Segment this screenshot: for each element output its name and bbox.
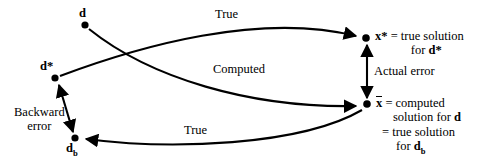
edge-label-actual-error: Actual error	[374, 64, 435, 78]
edge-label-true-top: True	[215, 7, 238, 21]
overbar-decoration	[376, 96, 381, 97]
edge-label-backward-error: Backward error	[14, 105, 65, 133]
edge-label-true-bottom: True	[184, 123, 207, 137]
node-caption-xstar-line2-bold: d*	[428, 43, 441, 57]
node-caption-xstar-line2-text: for	[411, 43, 426, 57]
node-caption-xbar-line4: for db	[376, 139, 461, 156]
node-dot-d	[81, 21, 88, 28]
node-dot-xbar	[363, 100, 371, 108]
node-caption-xbar-line4-text: for	[396, 139, 411, 153]
node-caption-xbar-line2-bold: d	[454, 110, 461, 124]
node-caption-xbar-line4-subscript: b	[421, 146, 426, 156]
node-caption-xbar-line4-bold: d	[414, 139, 421, 153]
node-dot-xstar	[362, 34, 370, 42]
node-caption-xstar-line1: x* = true solution	[375, 29, 464, 43]
edge-xbar-to-db-true	[86, 110, 362, 144]
node-caption-xbar-line1: x = computed	[376, 96, 461, 110]
edge-dstar-to-xstar-true	[60, 28, 356, 76]
node-caption-xbar: x = computed solution for d = true solut…	[376, 96, 461, 156]
node-label-db-subscript: b	[73, 148, 78, 158]
node-caption-xbar-line1-text: = computed	[385, 96, 444, 110]
node-caption-xbar-line2-text: solution for	[393, 110, 451, 124]
node-label-db: db	[66, 141, 78, 158]
node-label-d: d	[79, 6, 86, 20]
node-label-dstar: d*	[40, 59, 53, 73]
node-caption-xstar-line2: for d*	[375, 43, 464, 57]
edge-label-backward-error-line2: error	[14, 119, 65, 133]
node-label-db-base: d	[66, 141, 73, 155]
node-symbol-xbar-letter: x	[376, 96, 382, 110]
node-caption-xbar-line3: = true solution	[376, 125, 461, 139]
backward-error-diagram: d d* db True Computed True Actual error …	[0, 0, 478, 165]
node-symbol-xbar: x	[376, 96, 382, 110]
node-caption-xbar-line2: solution for d	[376, 110, 461, 124]
node-caption-xstar-line1-text: = true solution	[391, 29, 464, 43]
node-caption-xstar: x* = true solution for d*	[375, 29, 464, 58]
edge-label-backward-error-line1: Backward	[14, 105, 65, 119]
node-dot-dstar	[51, 74, 58, 81]
node-symbol-xstar: x*	[375, 29, 388, 43]
edge-label-computed: Computed	[213, 62, 265, 76]
